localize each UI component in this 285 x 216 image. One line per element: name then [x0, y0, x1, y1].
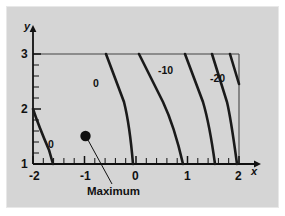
contour-label-minus-20: -20: [210, 73, 225, 84]
figure-root: -2 -1 0 1 2 1 2 3 y x 0 0 -10 -20 Maximu…: [0, 0, 285, 216]
y-axis-arrowhead: [30, 25, 37, 32]
y-tick-label-2: 2: [21, 103, 28, 115]
contour-label-zero-lower: 0: [48, 139, 54, 150]
contour-label-zero-upper: 0: [93, 78, 99, 89]
x-axis-label: x: [251, 166, 257, 177]
y-axis-label: y: [24, 21, 30, 32]
contour-minus-20: [212, 54, 237, 164]
x-tick-label-0: 0: [132, 170, 139, 182]
maximum-leader-line: [88, 140, 112, 184]
y-tick-label-1: 1: [21, 158, 28, 170]
y-tick-label-3: 3: [21, 48, 28, 60]
maximum-point-marker: [80, 131, 90, 141]
x-tick-label-2: 2: [235, 170, 242, 182]
x-tick-label-neg2: -2: [29, 170, 40, 182]
contour-plot-canvas: [0, 0, 285, 216]
x-tick-label-neg1: -1: [80, 170, 91, 182]
contour-intermediate: [185, 54, 215, 164]
contour-zero-left: [33, 109, 53, 164]
contour-zero-main: [106, 54, 133, 164]
maximum-annotation-label: Maximum: [87, 186, 140, 198]
contour-right-edge: [230, 54, 239, 84]
x-tick-label-1: 1: [184, 170, 191, 182]
contour-label-minus-10: -10: [158, 65, 173, 76]
